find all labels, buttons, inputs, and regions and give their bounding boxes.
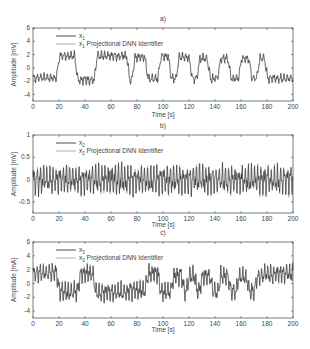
subplot-title: a) [160, 15, 166, 23]
x-tick-label: 120 [184, 320, 195, 327]
y-tick-label: -4 [24, 91, 30, 98]
y-tick-label: 4 [26, 37, 30, 44]
x-axis-label: Time [s] [152, 326, 175, 334]
state-series-line [33, 50, 293, 85]
y-tick-label: 2 [26, 266, 30, 273]
x-tick-label: 140 [210, 320, 221, 327]
x-tick-label: 180 [262, 320, 273, 327]
x-tick-label: 80 [133, 103, 141, 110]
y-tick-label: 6 [26, 238, 30, 245]
y-axis-label: Amplitude [mA] [10, 258, 18, 302]
x-tick-label: 0 [31, 320, 35, 327]
subplot-title: b) [160, 122, 166, 130]
x-tick-label: 80 [133, 320, 141, 327]
x-tick-label: 100 [158, 103, 169, 110]
legend-entry: x2 Projectional DNN Identifier [79, 147, 164, 156]
legend-suffix: Projectional DNN Identifier [85, 40, 164, 48]
x-tick-label: 40 [81, 103, 89, 110]
legend-spacer [55, 40, 56, 41]
legend-spacer [55, 139, 56, 140]
legend-spacer [55, 254, 56, 255]
legend-entry: x1 Projectional DNN Identifier [79, 40, 164, 49]
y-tick-label: 2 [26, 51, 30, 58]
y-tick-label: 0 [26, 280, 30, 287]
x-tick-label: 160 [236, 320, 247, 327]
legend-spacer [55, 32, 56, 33]
x-tick-label: 160 [236, 103, 247, 110]
x-tick-label: 60 [107, 320, 115, 327]
x-tick-label: 160 [236, 215, 247, 222]
subplot-b: b)02040608010012014016018020010.50-0.5Ti… [10, 122, 299, 229]
y-tick-label: -0.5 [19, 198, 31, 205]
legend-entry: x3 Projectional DNN Identifier [79, 254, 164, 263]
x-tick-label: 140 [210, 103, 221, 110]
y-tick-label: 0 [26, 64, 30, 71]
subplot-c: c)0204060801001201401601802006420-2-4Tim… [10, 229, 299, 334]
y-tick-label: -2 [24, 293, 30, 300]
x-axis-label: Time [s] [152, 221, 175, 229]
state-series-line [33, 162, 293, 197]
x-tick-label: 200 [288, 215, 299, 222]
x-tick-label: 20 [55, 215, 63, 222]
y-tick-label: 0.5 [21, 153, 30, 160]
legend-spacer [55, 246, 56, 247]
x-tick-label: 140 [210, 215, 221, 222]
y-tick-label: 1 [26, 131, 30, 138]
x-tick-label: 120 [184, 103, 195, 110]
y-tick-label: 6 [26, 24, 30, 31]
x-tick-label: 80 [133, 215, 141, 222]
y-axis-label: Amplitude [mV] [10, 42, 18, 86]
state-series-line [33, 263, 293, 303]
y-tick-label: 0 [26, 176, 30, 183]
x-tick-label: 0 [31, 215, 35, 222]
x-tick-label: 60 [107, 103, 115, 110]
x-tick-label: 0 [31, 103, 35, 110]
x-axis-label: Time [s] [152, 111, 175, 119]
legend-suffix: Projectional DNN Identifier [85, 254, 164, 262]
legend: x1x1 Projectional DNN Identifier [55, 32, 164, 49]
x-tick-label: 180 [262, 215, 273, 222]
y-axis-label: Amplitude [mV] [10, 152, 18, 196]
x-tick-label: 200 [288, 103, 299, 110]
y-tick-label: 4 [26, 252, 30, 259]
x-tick-label: 120 [184, 215, 195, 222]
y-tick-label: -2 [24, 77, 30, 84]
y-tick-label: -4 [24, 307, 30, 314]
x-tick-label: 40 [81, 215, 89, 222]
x-tick-label: 180 [262, 103, 273, 110]
x-tick-label: 60 [107, 215, 115, 222]
figure: a)0204060801001201401601802006420-2-4Tim… [0, 0, 310, 349]
legend-spacer [55, 147, 56, 148]
x-tick-label: 200 [288, 320, 299, 327]
x-tick-label: 20 [55, 320, 63, 327]
legend: x3x3 Projectional DNN Identifier [55, 246, 164, 263]
subplot-title: c) [160, 229, 165, 237]
x-tick-label: 20 [55, 103, 63, 110]
x-tick-label: 40 [81, 320, 89, 327]
legend-suffix: Projectional DNN Identifier [85, 147, 164, 155]
legend: x2x2 Projectional DNN Identifier [55, 139, 164, 156]
subplot-a: a)0204060801001201401601802006420-2-4Tim… [10, 15, 299, 119]
